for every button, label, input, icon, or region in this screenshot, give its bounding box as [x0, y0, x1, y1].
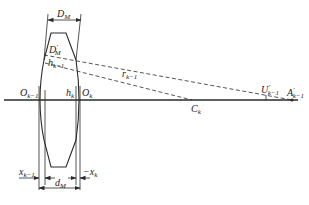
label-x-k-1: xk−1: [18, 166, 35, 179]
label-O-k-1: Ok−1: [20, 87, 39, 100]
label-r-k-1: rk−1: [122, 68, 137, 81]
lens-diagram: DM D′M hk−1 rk−1 Ok−1 hk Ok Ck U′k−1 A′k…: [0, 0, 309, 205]
label-neg-x-k: −xk: [83, 166, 98, 179]
label-O-k: Ok: [82, 87, 93, 100]
label-D-prime-M: D′M: [48, 43, 62, 57]
extension-line-top-right: [76, 14, 81, 60]
label-A-prime-k-1: A′k−1: [286, 86, 304, 100]
label-h-k-1: hk−1: [48, 57, 64, 70]
label-h-k: hk: [66, 87, 75, 100]
label-U-prime-k-1: U′k−1: [261, 83, 279, 97]
label-C-k: Ck: [191, 103, 202, 116]
label-D-M: DM: [56, 8, 71, 21]
